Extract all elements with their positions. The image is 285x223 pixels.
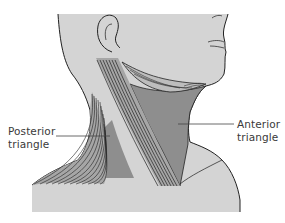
anterior-triangle-label: Anterior triangle [237, 118, 280, 144]
neck-anatomy-diagram: Posterior triangle Anterior triangle [0, 0, 285, 223]
posterior-label-line2: triangle [8, 138, 55, 151]
anterior-label-line2: triangle [237, 131, 280, 144]
neck-illustration [0, 0, 285, 223]
anterior-label-line1: Anterior [237, 118, 280, 131]
posterior-label-line1: Posterior [8, 125, 55, 138]
posterior-triangle-label: Posterior triangle [8, 125, 55, 151]
